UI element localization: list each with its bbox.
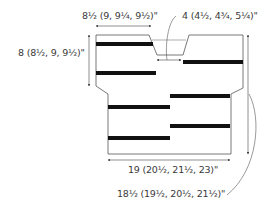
stripe-4 <box>170 94 230 98</box>
body-width-label: 19 (20½, 21½, 23)" <box>128 164 218 175</box>
sweater-schematic <box>0 0 271 215</box>
neck-leader-line <box>166 16 176 60</box>
armhole-depth-label: 8 (8½, 9, 9½)" <box>18 47 85 58</box>
shoulder-width-label: 8½ (9, 9¼, 9½)" <box>82 10 158 21</box>
stripe-5 <box>108 105 170 109</box>
neck-width-label: 4 (4½, 4¾, 5¼)" <box>182 10 258 21</box>
stripe-3 <box>183 60 243 64</box>
stripe-7 <box>108 136 170 140</box>
stripe-2 <box>96 71 156 75</box>
stripe-6 <box>170 124 230 128</box>
stripe-1 <box>96 42 153 46</box>
stripes <box>96 42 243 140</box>
body-length-label: 18½ (19½, 20½, 21½)" <box>117 188 225 199</box>
